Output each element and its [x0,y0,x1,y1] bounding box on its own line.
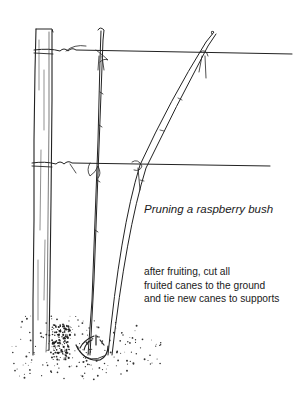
ground-shadow-dot [62,332,64,334]
ground-dot [56,318,58,320]
ground-dot [69,366,71,368]
ground-shadow-dot [55,347,56,348]
ground-dot [71,327,72,328]
ground-dot [52,331,53,332]
ground-dot [81,322,83,324]
ground-dot [159,363,161,365]
ground-shadow-dot [64,340,66,342]
ground-shadow-dot [65,329,66,330]
ground-shadow-dot [64,330,65,331]
ground-shadow-dot [52,353,54,355]
ground-shadow-dot [68,357,70,359]
ground-dot [125,344,126,345]
ground-dot [52,346,53,347]
ground-shadow-dot [56,340,57,341]
ground-dot [17,369,18,370]
ground-dot [25,316,26,317]
ground-dot [85,366,86,367]
ground-dot [156,344,157,345]
ground-dot [46,362,47,363]
ground-dot [132,362,134,364]
ground-dot [43,337,44,338]
ground-shadow-dot [61,351,63,353]
ground-dot [102,369,103,370]
ground-shadow-dot [56,359,58,361]
ground-shadow-dot [61,349,63,351]
ground-dot [24,377,26,379]
ground-shadow-dot [53,350,54,351]
ground-dot [82,375,84,377]
ground-dot [99,367,101,369]
ground-dot [91,364,92,365]
ground-dot [84,361,85,362]
ground-dot [92,369,93,370]
ground-shadow-dot [57,352,59,354]
ground-dot [83,321,84,322]
ground-dot [86,360,88,362]
ground-shadow-dot [65,359,67,361]
ground-dot [12,346,13,347]
ground-shadow-dot [67,329,68,330]
ground-shadow-dot [63,325,65,327]
ground-dot [129,337,130,338]
ground-shadow-dot [68,346,69,347]
ground-dot [132,337,134,339]
ground-dot [79,362,80,363]
ground-dot [29,369,31,371]
ground-shadow-dot [53,359,54,360]
ground-dot [136,325,138,327]
ground-dot [71,365,72,366]
ground-dot [74,335,75,336]
ground-dot [64,343,65,344]
ground-dot [23,365,24,366]
ground-dot [151,340,152,341]
figure-title: Pruning a raspberry bush [144,203,273,215]
ground-dot [13,363,15,365]
ground-shadow-dot [63,359,64,360]
ground-dot [15,346,16,347]
ground-dot [61,336,62,337]
ground-shadow-dot [62,344,63,345]
ground-dot [144,358,146,360]
ground-dot [74,350,75,351]
ground-shadow-dot [58,359,59,360]
ground-dot [63,341,64,342]
ground-dot [124,352,125,353]
ground-dot [107,365,108,366]
ground-dot [127,341,128,342]
ground-shadow-dot [66,342,68,344]
ground-dot [12,352,14,354]
ground-dot [96,336,98,338]
ground-dot [93,378,95,380]
ground-dot [96,326,97,327]
ground-dot [126,360,128,362]
ground-shadow-dot [66,350,68,352]
ground-dot [54,365,55,366]
ground-dot [31,359,33,361]
ground-dot [83,357,84,358]
note-line: and tie new canes to supports [144,292,279,306]
ground-dot [106,372,107,373]
ground-dot [50,351,52,353]
ground-dot [34,354,35,355]
ground-shadow-dot [58,336,59,337]
cut-cane-stubs [76,335,108,360]
ground-dot [160,342,162,344]
ground-dot [75,316,76,317]
ground-dot [119,340,121,342]
ground-dot [64,348,65,349]
ground-dot [87,335,88,336]
ground-shadow-dot [59,324,61,326]
note-line: fruited canes to the ground [144,279,279,293]
ground-shadow-dot [52,334,54,336]
ground-dot [40,336,42,338]
ground-dot [25,363,26,364]
ground-dot [106,369,107,370]
ground-dot [98,326,100,328]
ground-dot [110,351,112,353]
ground-shadow-dot [60,357,61,358]
ground-dot [28,365,29,366]
ground-dot [79,343,80,344]
new-cane-straight [88,28,108,355]
ground-dot [29,332,31,334]
